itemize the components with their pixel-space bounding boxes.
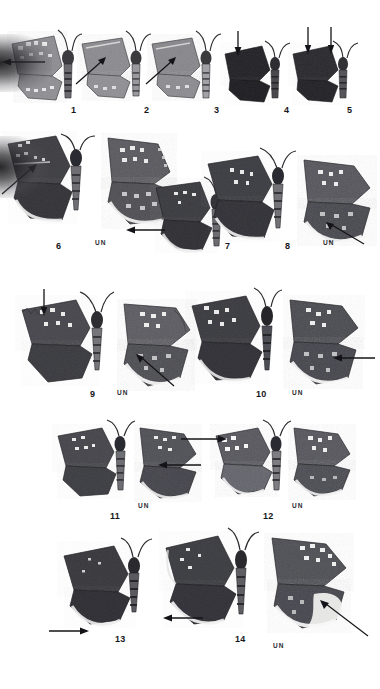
specimen-13-body xyxy=(64,538,152,624)
pointer-arrow-figure-6 xyxy=(0,160,40,196)
underside-label-10: UN xyxy=(292,390,304,397)
pointer-arrow-figure-13 xyxy=(48,625,92,637)
pointer-arrow-figure-5b xyxy=(326,26,336,56)
figure-number-4: 4 xyxy=(284,106,289,115)
specimen-plate: 1 2 3 4 5 xyxy=(0,0,380,689)
figure-number-6: 6 xyxy=(56,242,61,251)
figure-number-1: 1 xyxy=(71,106,76,115)
figure-number-11: 11 xyxy=(110,512,120,521)
pointer-arrow-figure-14b xyxy=(310,598,370,638)
pointer-arrow-figure-9b xyxy=(128,352,176,388)
pointer-arrow-figure-3 xyxy=(144,54,178,86)
figure-number-2: 2 xyxy=(144,106,149,115)
underside-label-11: UN xyxy=(138,503,150,510)
specimen-10-underside-body xyxy=(290,300,358,384)
figure-number-13: 13 xyxy=(115,635,126,644)
underside-label-6: UN xyxy=(95,240,107,247)
pointer-arrow-figure-9a xyxy=(39,288,49,318)
figure-number-3: 3 xyxy=(214,106,219,115)
figure-number-8: 8 xyxy=(285,242,290,251)
figure-number-9: 9 xyxy=(90,390,95,399)
underside-label-9: UN xyxy=(117,390,129,397)
pointer-arrow-figure-7 xyxy=(124,224,166,236)
specimen-14-dorsal-body xyxy=(166,528,259,624)
pointer-arrow-figure-1 xyxy=(0,56,46,68)
underside-label-12: UN xyxy=(292,503,304,510)
pointer-arrow-figure-14a xyxy=(160,612,204,624)
specimen-12-underside-body xyxy=(294,428,350,496)
pointer-arrow-figure-11 xyxy=(154,459,202,471)
pointer-arrow-figure-5a xyxy=(303,26,313,56)
figure-number-14: 14 xyxy=(235,635,246,644)
figure-number-5: 5 xyxy=(347,106,352,115)
pointer-arrow-figure-10 xyxy=(330,352,376,364)
underside-label-8: UN xyxy=(323,240,335,247)
figure-10-underside xyxy=(264,288,362,392)
underside-label-14: UN xyxy=(273,643,285,650)
figure-12-underside xyxy=(272,420,354,502)
figure-number-7: 7 xyxy=(225,242,230,251)
pointer-arrow-figure-2 xyxy=(74,54,108,86)
figure-number-10: 10 xyxy=(256,390,267,399)
pointer-arrow-figure-12 xyxy=(180,433,230,445)
figure-number-12: 12 xyxy=(263,512,274,521)
pointer-arrow-figure-4 xyxy=(232,30,244,58)
figure-13 xyxy=(58,536,158,636)
